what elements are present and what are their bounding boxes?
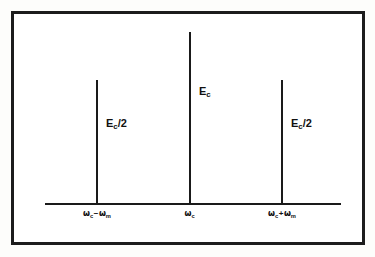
- frequency-label-lower-sideband: ωc−ωm: [83, 210, 111, 219]
- spectral-line-lower-sideband: [96, 80, 98, 204]
- amplitude-suffix-upper: /2: [303, 117, 312, 129]
- omega-sub-lower-2: m: [106, 213, 111, 219]
- omega-symbol-carrier-1: ω: [184, 209, 191, 218]
- spectral-line-upper-sideband: [281, 80, 283, 204]
- spectral-line-carrier: [189, 32, 191, 204]
- amplitude-label-upper-sideband: Ec/2: [291, 118, 312, 131]
- operator-carrier: [195, 209, 196, 218]
- omega-symbol-upper-2: ω: [284, 209, 291, 218]
- omega-symbol-lower-2: ω: [99, 209, 106, 218]
- amplitude-suffix-lower: /2: [118, 117, 127, 129]
- omega-sub-upper-2: m: [291, 213, 296, 219]
- plot-area: Ec/2 Ec Ec/2 ωc−ωm ωc ωc+ωm: [14, 14, 368, 248]
- frequency-label-upper-sideband: ωc+ωm: [268, 210, 296, 219]
- omega-symbol-upper-1: ω: [268, 209, 275, 218]
- omega-symbol-lower-1: ω: [83, 209, 90, 218]
- frequency-axis: [45, 203, 341, 205]
- frequency-label-carrier: ωc: [184, 210, 195, 219]
- figure-frame: Ec/2 Ec Ec/2 ωc−ωm ωc ωc+ωm: [11, 11, 365, 245]
- amplitude-label-carrier: Ec: [199, 86, 211, 99]
- amplitude-label-lower-sideband: Ec/2: [106, 118, 127, 131]
- amplitude-sub-carrier: c: [206, 90, 210, 99]
- figure-root: Ec/2 Ec Ec/2 ωc−ωm ωc ωc+ωm: [0, 0, 375, 257]
